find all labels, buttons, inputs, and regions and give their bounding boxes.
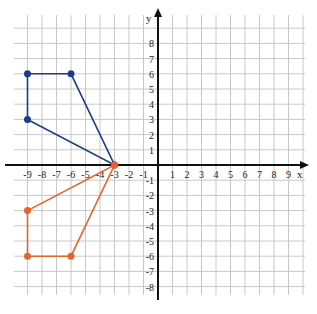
y-tick-label: 5 xyxy=(149,84,154,95)
x-tick-label: 6 xyxy=(243,169,248,180)
vertex-point xyxy=(111,162,118,169)
x-tick-label: -2 xyxy=(125,169,133,180)
y-tick-label: 2 xyxy=(149,130,154,141)
vertex-point xyxy=(24,70,31,77)
y-tick-label: 8 xyxy=(149,38,154,49)
x-tick-label: -6 xyxy=(67,169,75,180)
grid-lines xyxy=(14,15,305,295)
y-tick-label: -7 xyxy=(146,266,154,277)
x-tick-label: -8 xyxy=(38,169,46,180)
x-tick-label: 3 xyxy=(199,169,204,180)
y-tick-label: 7 xyxy=(149,54,154,65)
y-tick-label: -6 xyxy=(146,251,154,262)
x-axis-label: x xyxy=(297,168,303,180)
vertex-point xyxy=(68,70,75,77)
y-tick-label: -4 xyxy=(146,221,154,232)
x-tick-label: 7 xyxy=(257,169,262,180)
y-tick-label: -5 xyxy=(146,236,154,247)
x-tick-label: 4 xyxy=(214,169,219,180)
x-tick-label: 1 xyxy=(170,169,175,180)
x-tick-label: 8 xyxy=(272,169,277,180)
y-tick-label: -3 xyxy=(146,206,154,217)
y-tick-label: 1 xyxy=(149,145,154,156)
coordinate-plane: -9-8-7-6-5-4-3-2-112345678987654321-1-2-… xyxy=(0,0,317,314)
x-tick-label: 2 xyxy=(185,169,190,180)
vertex-point xyxy=(68,253,75,260)
y-axis-arrow-icon xyxy=(154,8,162,17)
y-tick-label: 3 xyxy=(149,114,154,125)
y-tick-label: 4 xyxy=(149,99,154,110)
y-tick-label: -8 xyxy=(146,282,154,293)
y-tick-label: -2 xyxy=(146,190,154,201)
x-tick-label: -7 xyxy=(52,169,60,180)
x-tick-label: 5 xyxy=(228,169,233,180)
x-tick-label: -9 xyxy=(23,169,31,180)
vertex-point xyxy=(24,253,31,260)
y-tick-label: -1 xyxy=(146,175,154,186)
x-tick-label: 9 xyxy=(286,169,291,180)
y-tick-label: 6 xyxy=(149,69,154,80)
vertex-point xyxy=(24,207,31,214)
vertex-point xyxy=(24,116,31,123)
y-axis-label: y xyxy=(146,12,152,24)
